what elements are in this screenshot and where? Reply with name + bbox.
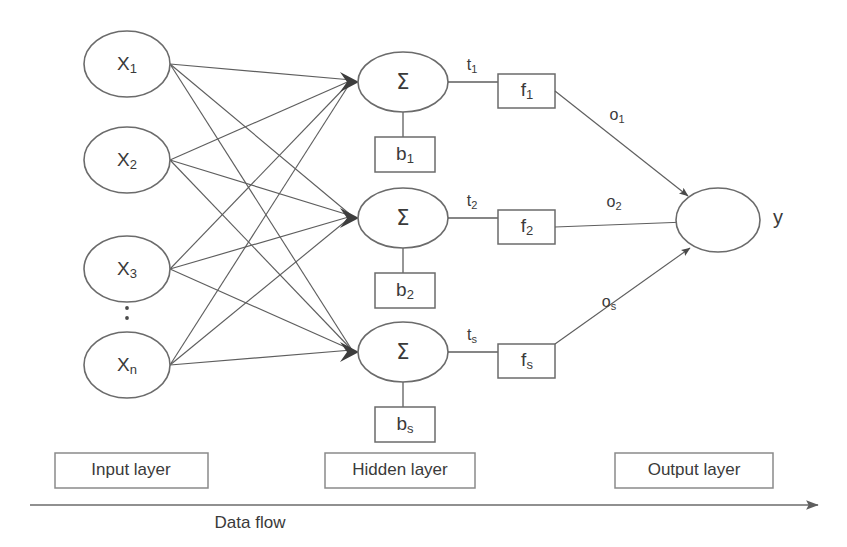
layer-caption-input[interactable]: Input layer [55, 453, 208, 488]
edge-x3-h1 [170, 80, 352, 269]
data-flow-label: Data flow [215, 513, 287, 532]
hidden-unit-2: b2 Σ t2 f2 o2 [358, 188, 686, 308]
arrowhead-h1 [340, 72, 359, 92]
data-flow-axis: Data flow [30, 505, 818, 532]
output-node[interactable]: y [676, 188, 783, 252]
input-node-x2[interactable]: X2 [84, 127, 170, 193]
input-ellipsis-icon [125, 306, 129, 320]
output-layer-caption-text: Output layer [648, 460, 741, 479]
edge-f2-output [555, 222, 686, 227]
input-node-x1[interactable]: X1 [84, 31, 170, 97]
edge-f3-output [555, 248, 690, 344]
hidden-sum-symbol-1: Σ [396, 70, 409, 94]
edge-x2-h1 [170, 80, 352, 160]
output-node-shape[interactable] [676, 188, 760, 252]
arrowhead-h3 [340, 342, 359, 362]
output-symbol-label: y [773, 206, 783, 228]
t-label-2: t2 [467, 192, 478, 211]
input-layer-caption-text: Input layer [91, 460, 171, 479]
hidden-sum-symbol-2: Σ [396, 206, 409, 230]
o-label-1: o1 [609, 106, 624, 125]
edge-xn-h3 [170, 350, 352, 365]
layer-caption-output[interactable]: Output layer [615, 453, 773, 488]
o-label-2: o2 [606, 193, 621, 212]
t-label-1: t1 [467, 56, 478, 75]
o-label-3: os [602, 293, 617, 312]
diagram-canvas: X1 X2 X3 Xn b1 Σ t1 f1 [0, 0, 847, 547]
hidden-layer-caption-text: Hidden layer [352, 460, 448, 479]
neural-network-diagram: X1 X2 X3 Xn b1 Σ t1 f1 [0, 0, 847, 547]
edge-x3-h3 [170, 269, 352, 350]
hidden-sum-symbol-3: Σ [396, 340, 409, 364]
ellipsis-dot-bottom [125, 316, 129, 320]
layer-caption-hidden[interactable]: Hidden layer [325, 453, 475, 488]
t-label-3: ts [467, 326, 477, 345]
edge-xn-h2 [170, 216, 352, 365]
arrowhead-h2 [340, 208, 359, 228]
edge-f1-output [555, 91, 688, 196]
input-node-xn[interactable]: Xn [84, 332, 170, 398]
ellipsis-dot-top [125, 306, 129, 310]
hidden-unit-1: b1 Σ t1 f1 o1 [358, 52, 688, 196]
edge-x1-h2 [170, 64, 352, 216]
edge-x1-h1 [170, 64, 352, 80]
edge-x3-h2 [170, 216, 352, 269]
input-node-x3[interactable]: X3 [84, 236, 170, 302]
hidden-input-arrowheads [340, 72, 359, 362]
input-to-hidden-edges [170, 64, 352, 365]
